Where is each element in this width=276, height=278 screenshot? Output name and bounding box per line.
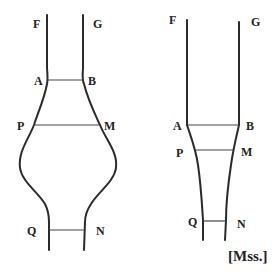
label-M-left: M (104, 119, 115, 133)
label-B-right: B (246, 119, 254, 133)
label-Q-right: Q (188, 215, 197, 229)
label-A-right: A (173, 119, 182, 133)
label-F-left: F (33, 17, 40, 31)
label-G-left: G (93, 17, 102, 31)
label-Q-left: Q (27, 224, 36, 238)
diagram-canvas: F G A B P M Q N F G A B P M Q N [Mss.] (0, 0, 276, 278)
label-G-right: G (251, 15, 260, 29)
right-figure-right-wall (225, 22, 239, 240)
label-A-left: A (34, 74, 43, 88)
label-B-left: B (88, 74, 96, 88)
label-M-right: M (241, 145, 252, 159)
caption-mss: [Mss.] (228, 248, 268, 264)
right-figure: F G A B P M Q N (169, 13, 260, 240)
right-figure-left-wall (187, 20, 203, 240)
left-figure: F G A B P M Q N (17, 15, 116, 250)
label-F-right: F (169, 13, 176, 27)
label-P-left: P (17, 119, 24, 133)
label-N-right: N (237, 217, 246, 231)
label-N-left: N (96, 224, 105, 238)
label-P-right: P (176, 146, 183, 160)
